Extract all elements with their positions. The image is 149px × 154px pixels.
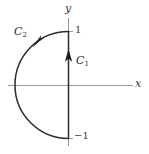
curve-label-c2-subscript: 2	[22, 31, 26, 39]
tick-label-positive-one: 1	[75, 25, 81, 35]
curve-label-c1: C1	[76, 55, 89, 66]
tick-label-negative-one: −1	[74, 131, 89, 141]
curve-label-c1-subscript: 1	[84, 60, 88, 68]
x-axis-label: x	[135, 78, 141, 89]
y-axis-label: y	[65, 3, 71, 14]
curve-label-c2: C2	[14, 26, 27, 37]
contour-diagram: y x 1 −1 C1 C2	[0, 0, 149, 154]
